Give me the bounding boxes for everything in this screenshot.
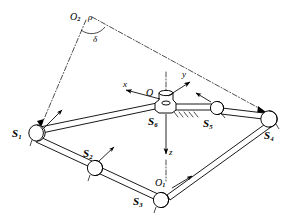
hatching-marks xyxy=(174,112,198,117)
axis-x-arrow xyxy=(126,90,160,99)
label-s2: S2 xyxy=(83,148,93,160)
label-axis-y: y xyxy=(182,70,186,79)
bar-s5-s4 xyxy=(221,108,264,119)
bar-s2-s3 xyxy=(98,167,158,200)
joint-s6-hub xyxy=(155,90,176,113)
label-o1: O1 xyxy=(155,178,165,189)
bar-s3-s4 xyxy=(167,122,271,200)
label-s6: S6 xyxy=(148,116,158,128)
label-hub-origin: O xyxy=(146,88,153,98)
label-rho: ρ xyxy=(88,13,92,22)
label-delta: δ xyxy=(93,35,97,44)
construction-line-o2-s1 xyxy=(41,20,86,126)
arrow-s2 xyxy=(98,147,114,162)
angle-delta-arc xyxy=(81,27,105,34)
joint-s3 xyxy=(153,192,168,213)
label-s4: S4 xyxy=(264,130,274,142)
label-axis-z: z xyxy=(169,148,173,157)
label-o2: O2 xyxy=(70,12,80,23)
label-s5: S5 xyxy=(203,118,213,130)
construction-line-o2-s4 xyxy=(92,17,266,112)
label-s3: S3 xyxy=(133,196,143,208)
label-axis-x: x xyxy=(123,80,127,89)
coordinate-axes xyxy=(126,82,190,154)
axis-y-arrow xyxy=(168,82,190,96)
mechanism-diagram-figure: O2 ρ δ x y z O O1 S1 S2 S3 S4 S5 S6 xyxy=(0,0,288,223)
arrow-s5 xyxy=(196,93,211,102)
label-s1: S1 xyxy=(12,128,22,140)
diagram-canvas xyxy=(0,0,288,223)
bar-s1-s6 xyxy=(40,103,160,133)
joint-s2 xyxy=(87,160,102,181)
joint-s5 xyxy=(210,101,225,118)
